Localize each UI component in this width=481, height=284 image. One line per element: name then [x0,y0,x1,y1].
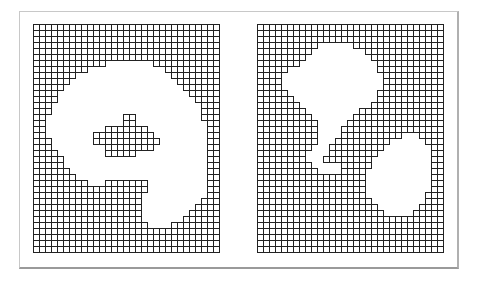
grid-cell [438,145,444,151]
grid-cell [288,151,294,157]
grid-cell [306,121,312,127]
grid-cell [300,49,306,55]
grid-cell [64,61,70,67]
grid-cell [426,205,432,211]
grid-cell [270,163,276,169]
grid-cell [208,223,214,229]
grid-cell [432,103,438,109]
grid-cell [396,97,402,103]
grid-cell [396,31,402,37]
grid-cell [276,121,282,127]
grid-cell [202,229,208,235]
grid-cell [306,229,312,235]
grid-cell [106,241,112,247]
grid-cell [288,121,294,127]
grid-cell [288,235,294,241]
grid-cell [154,31,160,37]
grid-cell [360,205,366,211]
grid-cell [88,49,94,55]
grid-cell [184,37,190,43]
grid-cell [336,235,342,241]
grid-cell [276,127,282,133]
grid-cell [294,145,300,151]
grid-cell [106,43,112,49]
grid-cell [34,55,40,61]
grid-cell [40,187,46,193]
grid-cell [330,199,336,205]
grid-cell [438,67,444,73]
grid-cell [276,181,282,187]
grid-cell [208,73,214,79]
grid-cell [306,49,312,55]
grid-cell [366,37,372,43]
grid-cell [34,43,40,49]
grid-cell [270,85,276,91]
grid-cell [348,163,354,169]
grid-cell [124,151,130,157]
grid-cell [196,73,202,79]
grid-cell [142,247,148,253]
grid-cell [172,241,178,247]
grid-cell [208,199,214,205]
grid-cell [76,217,82,223]
grid-cell [384,49,390,55]
grid-cell [414,235,420,241]
grid-cell [360,181,366,187]
grid-cell [88,247,94,253]
grid-cell [420,229,426,235]
grid-cell [208,211,214,217]
grid-cell [100,223,106,229]
grid-cell [342,127,348,133]
grid-cell [46,229,52,235]
grid-cell [112,247,118,253]
grid-cell [100,25,106,31]
grid-cell [300,109,306,115]
grid-cell [46,103,52,109]
grid-cell [336,31,342,37]
grid-cell [288,157,294,163]
grid-cell [214,145,220,151]
grid-cell [100,205,106,211]
grid-cell [214,115,220,121]
grid-cell [282,31,288,37]
grid-cell [300,127,306,133]
grid-cell [348,193,354,199]
grid-cell [264,223,270,229]
grid-cell [264,121,270,127]
grid-cell [336,151,342,157]
grid-cell [208,181,214,187]
grid-cell [432,109,438,115]
grid-cell [154,49,160,55]
grid-cell [342,37,348,43]
grid-cell [118,181,124,187]
grid-cell [34,145,40,151]
grid-cell [34,61,40,67]
grid-cell [276,139,282,145]
grid-cell [130,229,136,235]
grid-cell [294,175,300,181]
grid-cell [172,73,178,79]
grid-cell [270,229,276,235]
grid-cell [336,175,342,181]
grid-cell [142,229,148,235]
grid-cell [64,37,70,43]
grid-cell [282,229,288,235]
grid-cell [396,103,402,109]
grid-cell [426,55,432,61]
grid-cell [82,187,88,193]
grid-cell [202,217,208,223]
grid-cell [354,145,360,151]
grid-cell [354,217,360,223]
grid-cell [348,235,354,241]
grid-cell [408,217,414,223]
grid-cell [106,181,112,187]
grid-cell [202,49,208,55]
grid-cell [148,55,154,61]
grid-cell [336,181,342,187]
grid-cell [306,169,312,175]
grid-cell [438,193,444,199]
grid-cell [184,55,190,61]
grid-cell [100,229,106,235]
grid-cell [112,241,118,247]
grid-cell [112,55,118,61]
